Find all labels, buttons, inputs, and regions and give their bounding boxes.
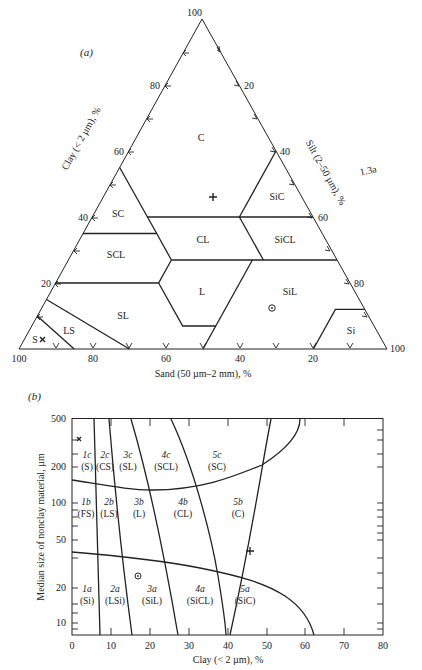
bottom-tick-100-right: 100: [390, 343, 405, 354]
bottom-tick-80: 80: [88, 353, 98, 364]
region-5b-name: (C): [232, 509, 245, 520]
silt-axis-title: Silt (2–50 µm), %: [303, 138, 349, 207]
marker-x-b: [77, 437, 81, 441]
region-3c-name: (SL): [119, 462, 136, 473]
region-L: L: [199, 286, 205, 297]
region-4c-code: 4c: [162, 450, 172, 460]
apex-label: 100: [187, 7, 202, 18]
region-1b-code: 1b: [81, 497, 91, 507]
region-Si: Si: [347, 325, 356, 336]
figure-ref-label: 1.3a: [359, 163, 378, 177]
marker-circle-dot: [269, 305, 275, 311]
region-3b-name: (L): [133, 509, 145, 520]
region-1a-name: (Si): [80, 596, 94, 607]
region-5c-code: 5c: [213, 450, 223, 460]
region-1c-name: (S): [81, 462, 93, 473]
region-4b-name: (CL): [174, 509, 192, 520]
region-5a-code: 5a: [240, 584, 250, 594]
region-labels-a: 1a (Si) 2a (LSi) 3a (SiL) 4a (SiCL) 5a (…: [80, 584, 255, 607]
region-4b-code: 4b: [178, 497, 188, 507]
panel-a-label: (a): [80, 46, 93, 59]
region-2b-name: (LS): [100, 509, 117, 520]
panel-b-label: (b): [28, 390, 41, 403]
right-tick-60: 60: [318, 212, 328, 223]
texture-boundaries: [37, 151, 365, 349]
region-3a-code: 3a: [146, 584, 157, 594]
region-5a-name: (SiC): [235, 596, 256, 607]
y-tick-500: 500: [51, 413, 66, 424]
region-2a-code: 2a: [110, 584, 120, 594]
region-3c-code: 3c: [123, 450, 134, 460]
figure-canvas: (a) 1.3a: [0, 0, 422, 670]
y-tick-10: 10: [56, 617, 66, 628]
region-1c-code: 1c: [83, 450, 93, 460]
left-tick-40: 40: [78, 212, 88, 223]
x-axis-title: Clay (< 2 µm), %: [193, 654, 264, 666]
region-4c-name: (SCL): [154, 462, 178, 473]
x-tick-10: 10: [106, 640, 116, 651]
x-tick-70: 70: [339, 640, 349, 651]
bottom-tick-40: 40: [235, 353, 245, 364]
clay-axis-title: Clay (< 2 µm), %: [59, 105, 104, 173]
x-tick-80: 80: [378, 640, 388, 651]
right-tick-40: 40: [280, 146, 290, 157]
bottom-tick-20: 20: [308, 353, 318, 364]
marker-cross: [209, 193, 217, 201]
bottom-edge-ticks: [53, 343, 353, 348]
region-2b-code: 2b: [104, 497, 114, 507]
y-tick-20: 20: [56, 582, 66, 593]
region-2c-name: (CS): [96, 462, 114, 473]
bottom-tick-60: 60: [161, 353, 171, 364]
x-tick-0: 0: [70, 640, 75, 651]
marker-circle-dot-b: [135, 573, 141, 579]
left-tick-60: 60: [114, 146, 124, 157]
x-tick-50: 50: [262, 640, 272, 651]
region-3b-code: 3b: [133, 497, 144, 507]
x-tick-30: 30: [184, 640, 194, 651]
region-CL: CL: [197, 234, 210, 245]
y-axis-title: Median size of nonclay material, µm: [35, 453, 46, 601]
region-SCL: SCL: [107, 249, 125, 260]
x-tick-20: 20: [145, 640, 155, 651]
region-2a-name: (LSi): [105, 596, 125, 607]
region-4a-name: (SiCL): [187, 596, 213, 607]
region-labels-b: 1b (FS) 2b (LS) 3b (L) 4b (CL) 5b (C): [78, 497, 245, 520]
region-1a-code: 1a: [82, 584, 92, 594]
y-tick-50: 50: [56, 534, 66, 545]
region-SiC: SiC: [269, 191, 284, 202]
left-edge-ticks: [37, 50, 189, 320]
region-2c-code: 2c: [101, 450, 111, 460]
bottom-tick-100: 100: [12, 353, 27, 364]
panel-a-ternary: (a) 1.3a: [12, 7, 406, 380]
region-LS: LS: [63, 325, 75, 336]
x-tick-40: 40: [223, 640, 233, 651]
region-4a-code: 4a: [195, 584, 205, 594]
region-5c-name: (SC): [208, 462, 226, 473]
region-SiCL: SiCL: [274, 234, 295, 245]
region-5b-code: 5b: [233, 497, 243, 507]
x-tick-60: 60: [300, 640, 310, 651]
region-S: S: [32, 334, 38, 345]
region-1b-name: (FS): [78, 509, 95, 520]
right-tick-80: 80: [354, 278, 364, 289]
region-SC: SC: [112, 208, 125, 219]
y-tick-200: 200: [51, 461, 66, 472]
region-3a-name: (SiL): [142, 596, 162, 607]
marker-x: [40, 337, 45, 342]
panel-b-plot: (b) 0 10 20 30: [28, 390, 388, 666]
region-labels-c: 1c (S) 2c (CS) 3c (SL) 4c (SCL) 5c (SC): [81, 450, 226, 473]
left-tick-20: 20: [41, 278, 51, 289]
right-tick-20: 20: [244, 80, 254, 91]
region-SiL: SiL: [283, 286, 297, 297]
region-SL: SL: [117, 310, 129, 321]
left-tick-80: 80: [150, 80, 160, 91]
sand-axis-title: Sand (50 µm–2 mm), %: [155, 368, 252, 380]
region-C: C: [198, 132, 205, 143]
y-tick-100: 100: [51, 497, 66, 508]
